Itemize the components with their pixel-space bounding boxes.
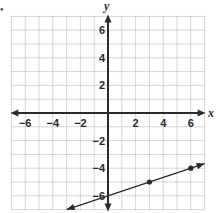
x-tick-label: −4 [47,117,60,129]
y-tick-label: −4 [92,162,105,174]
x-tick-label: 6 [188,117,194,129]
x-tick-label: 4 [160,117,167,129]
line-arrow-left-icon [67,204,76,210]
y-tick-label: 6 [99,24,105,36]
y-tick-label: −2 [92,135,105,147]
question-marker: • [0,4,4,15]
x-tick-label: 2 [133,117,139,129]
x-tick-label: −6 [19,117,32,129]
y-axis-down-arrow-icon [105,204,112,212]
x-tick-label: −2 [74,117,87,129]
y-axis-up-arrow-icon [105,14,112,22]
data-point [147,179,152,184]
y-tick-label: 4 [99,52,106,64]
coordinate-plane: • −6−4−2246642−2−4−6 x y [0,0,216,213]
x-axis-label: x [207,106,214,120]
y-tick-label: 2 [99,79,105,91]
y-axis-label: y [102,0,110,13]
data-point [188,166,193,171]
